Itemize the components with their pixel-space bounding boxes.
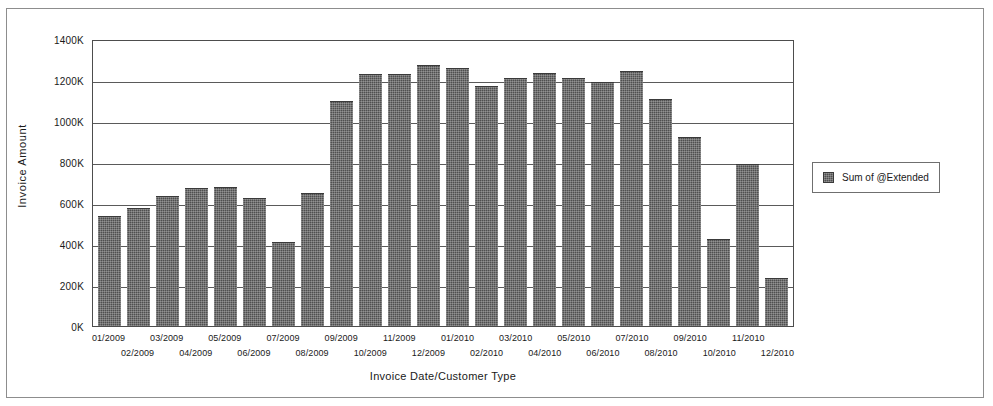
x-axis-tick-slot: 12/2009 <box>414 330 443 366</box>
plot-area <box>92 40 794 327</box>
bar-slot <box>704 41 733 326</box>
x-axis-tick-slot: 10/2010 <box>705 330 734 366</box>
bar-slot <box>530 41 559 326</box>
x-axis-tick: 08/2010 <box>644 348 677 358</box>
x-axis-tick: 12/2010 <box>761 348 794 358</box>
bar-slot <box>675 41 704 326</box>
bar[interactable] <box>417 65 439 326</box>
bar[interactable] <box>446 68 468 326</box>
legend-swatch-icon <box>823 172 834 183</box>
x-axis-tick: 08/2009 <box>295 348 328 358</box>
x-axis-tick-slot: 01/2009 <box>94 330 123 366</box>
x-axis-tick-slot: 05/2009 <box>210 330 239 366</box>
x-axis-tick: 05/2010 <box>557 333 590 343</box>
chart-legend: Sum of @Extended <box>812 162 940 193</box>
x-axis-tick: 02/2010 <box>470 348 503 358</box>
x-axis-tick-slot: 02/2010 <box>472 330 501 366</box>
x-axis-tick-slot: 05/2010 <box>559 330 588 366</box>
x-axis-tick: 01/2010 <box>441 333 474 343</box>
bar[interactable] <box>707 239 729 326</box>
bar[interactable] <box>272 242 294 326</box>
bar[interactable] <box>504 78 526 326</box>
x-axis-tick: 07/2009 <box>266 333 299 343</box>
bar[interactable] <box>562 78 584 326</box>
bar-slot <box>356 41 385 326</box>
bar-slot <box>211 41 240 326</box>
bar[interactable] <box>214 187 236 326</box>
y-axis-tick: 1400K <box>54 35 84 46</box>
x-axis-tick: 03/2010 <box>499 333 532 343</box>
bar-slot <box>385 41 414 326</box>
bar[interactable] <box>98 216 120 326</box>
bar[interactable] <box>185 188 207 326</box>
x-axis-tick-slot: 11/2009 <box>385 330 414 366</box>
bar[interactable] <box>156 196 178 326</box>
bar[interactable] <box>678 137 700 326</box>
bar-slot <box>646 41 675 326</box>
bar-slot <box>269 41 298 326</box>
x-axis-tick: 10/2009 <box>354 348 387 358</box>
x-axis-tick: 06/2010 <box>586 348 619 358</box>
bar-slot <box>443 41 472 326</box>
x-axis-tick: 10/2010 <box>703 348 736 358</box>
x-axis-tick-slot: 11/2010 <box>734 330 763 366</box>
x-axis-tick-labels: 01/200902/200903/200904/200905/200906/20… <box>92 330 794 366</box>
x-axis-tick: 06/2009 <box>237 348 270 358</box>
bar-slot <box>414 41 443 326</box>
bar[interactable] <box>620 71 642 326</box>
x-axis-tick: 07/2010 <box>615 333 648 343</box>
x-axis-tick: 11/2009 <box>383 333 416 343</box>
y-axis-tick: 200K <box>60 281 84 292</box>
bar[interactable] <box>765 278 787 326</box>
x-axis-title: Invoice Date/Customer Type <box>92 370 794 382</box>
bar-slot <box>617 41 646 326</box>
y-axis-tick: 800K <box>60 158 84 169</box>
bar[interactable] <box>475 86 497 326</box>
y-axis-tick: 600K <box>60 199 84 210</box>
x-axis-tick: 04/2009 <box>179 348 212 358</box>
y-axis-tick: 1000K <box>54 117 84 128</box>
bar[interactable] <box>301 193 323 326</box>
bar[interactable] <box>127 208 149 326</box>
x-axis-tick: 04/2010 <box>528 348 561 358</box>
x-axis-tick: 12/2009 <box>412 348 445 358</box>
bar[interactable] <box>736 164 758 326</box>
bar-slot <box>298 41 327 326</box>
bar[interactable] <box>388 74 410 326</box>
bar[interactable] <box>359 74 381 326</box>
bar[interactable] <box>533 73 555 326</box>
x-axis-tick-slot: 09/2010 <box>676 330 705 366</box>
x-axis-tick-slot: 10/2009 <box>356 330 385 366</box>
x-axis-tick-slot: 02/2009 <box>123 330 152 366</box>
legend-label: Sum of @Extended <box>842 172 929 183</box>
x-axis-tick-slot: 09/2009 <box>327 330 356 366</box>
bar-slot <box>182 41 211 326</box>
x-axis-tick-slot: 01/2010 <box>443 330 472 366</box>
x-axis-tick-slot: 08/2009 <box>298 330 327 366</box>
bar[interactable] <box>330 101 352 327</box>
bar-slot <box>762 41 791 326</box>
bar-slot <box>472 41 501 326</box>
chart-screenshot: Invoice Amount 1400K1200K1000K800K600K40… <box>0 0 993 406</box>
bar-slot <box>559 41 588 326</box>
bar-slot <box>240 41 269 326</box>
x-axis-tick-slot: 07/2009 <box>269 330 298 366</box>
bar[interactable] <box>243 198 265 326</box>
x-axis-tick: 11/2010 <box>732 333 765 343</box>
y-axis-tick: 400K <box>60 240 84 251</box>
x-axis-tick-slot: 06/2010 <box>588 330 617 366</box>
bar[interactable] <box>591 82 613 326</box>
x-axis-tick-slot: 04/2009 <box>181 330 210 366</box>
x-axis-tick: 09/2009 <box>325 333 358 343</box>
bar-slot <box>95 41 124 326</box>
y-axis-tick: 0K <box>71 322 84 333</box>
bar-series <box>93 41 793 326</box>
bar[interactable] <box>649 99 671 326</box>
y-axis-title: Invoice Amount <box>16 96 28 236</box>
bar-slot <box>588 41 617 326</box>
x-axis-tick-slot: 07/2010 <box>618 330 647 366</box>
x-axis-tick: 02/2009 <box>121 348 154 358</box>
bar-slot <box>124 41 153 326</box>
x-axis-tick-slot: 06/2009 <box>239 330 268 366</box>
y-axis-tick-labels: 1400K1200K1000K800K600K400K200K0K <box>40 30 88 330</box>
